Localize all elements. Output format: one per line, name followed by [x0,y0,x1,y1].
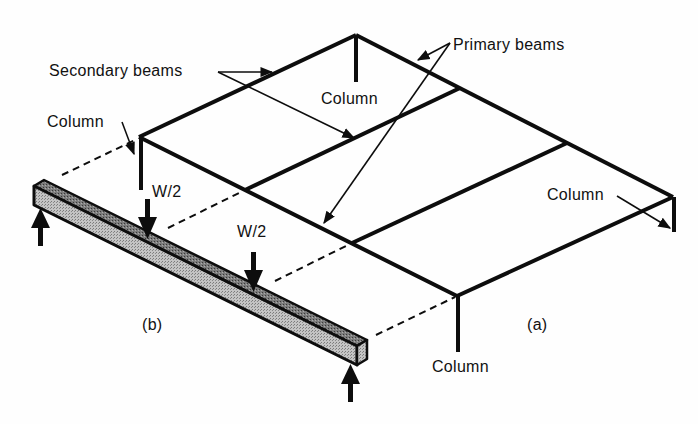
reaction-arrow-right [341,364,360,402]
label-column-right: Column [547,186,604,203]
leader-column-left [122,122,134,154]
label-load-2: W/2 [237,223,266,240]
leader-primary-1 [418,43,450,60]
label-column-left: Column [47,113,104,130]
projection-line-1 [62,140,135,175]
label-load-1: W/2 [152,183,181,200]
label-secondary-beams: Secondary beams [49,62,182,79]
projection-line-3 [275,244,350,281]
edge-front-right [457,197,673,296]
beam-top-face [34,180,367,346]
label-part-b: (b) [142,316,162,333]
structural-framing-diagram: Secondary beams Primary beams Column Col… [0,0,698,424]
beam-end-face [357,340,367,365]
label-column-front: Column [432,358,489,375]
support-reactions [31,208,360,402]
isolated-beam [34,180,367,365]
projection-line-4 [376,297,455,335]
label-part-a: (a) [527,316,547,333]
reaction-arrow-left [31,208,50,246]
beam-side-face [34,186,357,365]
secondary-beam-2 [352,143,567,243]
label-column-back: Column [321,90,378,107]
label-primary-beams: Primary beams [453,36,564,53]
diagram-svg: Secondary beams Primary beams Column Col… [0,0,698,424]
